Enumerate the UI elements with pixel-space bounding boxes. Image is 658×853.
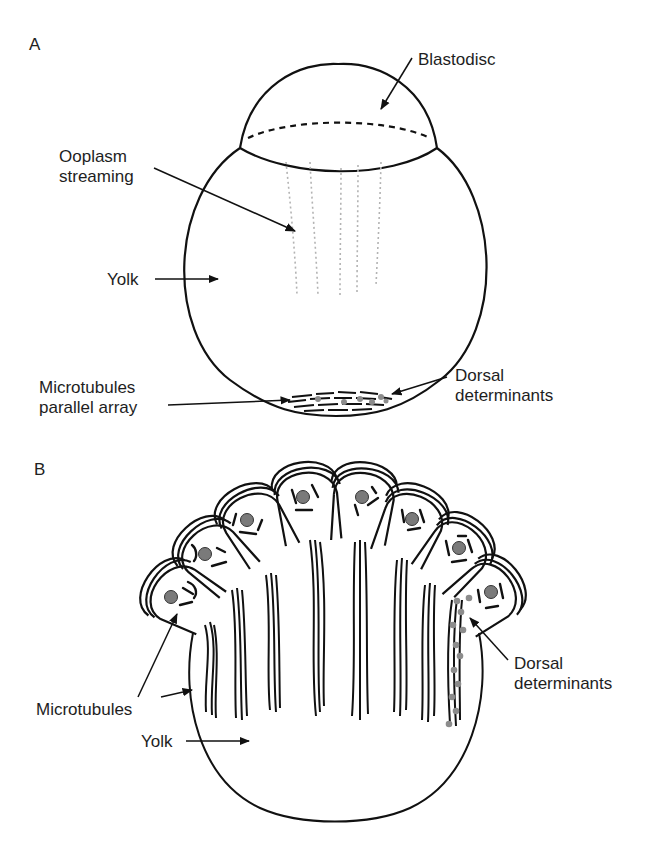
- label-blastodisc: Blastodisc: [418, 50, 495, 69]
- dorsal-determinants-arrow-a: [392, 377, 447, 394]
- cell-3: [206, 472, 303, 573]
- label-dorsal-determinants-b-line2: determinants: [514, 674, 612, 693]
- yolk-sphere-b: [189, 633, 482, 822]
- panel-label-a: A: [29, 35, 40, 55]
- yolk-sphere-a: [184, 148, 486, 416]
- blastoderm-cells: [130, 458, 538, 645]
- label-microtubules-array-line1: Microtubules: [39, 378, 135, 397]
- label-ooplasm-line2: streaming: [59, 167, 134, 186]
- label-microtubules-array-line2: parallel array: [39, 398, 137, 417]
- microtubules-arrow-upper: [138, 614, 177, 697]
- label-dorsal-determinants-a-line1: Dorsal: [455, 366, 504, 385]
- egg-diagram-figure: [0, 0, 658, 853]
- blastodisc: [240, 64, 437, 171]
- panel-a-leader-arrows: [154, 58, 447, 405]
- microtubule-bundles: [205, 540, 462, 726]
- ooplasm-streaming-lines: [286, 162, 381, 295]
- blastodisc-arrow: [381, 58, 412, 109]
- ooplasm-arrow: [154, 168, 295, 231]
- label-yolk-a: Yolk: [107, 270, 139, 289]
- microtubule-parallel-array: [288, 392, 392, 411]
- label-ooplasm-line1: Ooplasm: [59, 147, 127, 166]
- label-dorsal-determinants-a-line2: determinants: [455, 386, 553, 405]
- microtubules-arrow-lower: [161, 690, 192, 697]
- label-yolk-b: Yolk: [141, 732, 173, 751]
- panel-b-drawing: [130, 458, 538, 822]
- panel-label-b: B: [34, 460, 45, 480]
- dorsal-determinants-arrow-b: [470, 618, 508, 660]
- label-microtubules-b: Microtubules: [36, 700, 132, 719]
- label-dorsal-determinants-b-line1: Dorsal: [514, 654, 563, 673]
- panel-a-drawing: [154, 58, 487, 416]
